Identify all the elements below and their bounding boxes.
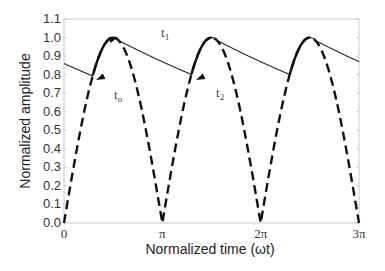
annotation-t0: to <box>114 87 123 104</box>
y-tick-label: 1.1 <box>43 11 61 26</box>
annotation-t2: t2 <box>216 85 224 102</box>
y-tick-label: 1.0 <box>43 30 61 45</box>
x-tick-label: 0 <box>61 226 68 241</box>
y-tick-label: 0.1 <box>43 196 61 211</box>
chart: 0.00.10.20.30.40.50.60.70.80.91.01.1 0π2… <box>0 0 385 271</box>
y-tick-label: 0.9 <box>43 48 61 63</box>
charging-segment <box>93 38 113 76</box>
x-axis-ticks: 0π2π3π <box>61 226 366 241</box>
x-tick-label: π <box>159 226 166 241</box>
x-tick-label: 3π <box>352 226 366 241</box>
charging-segment <box>192 38 212 75</box>
y-tick-label: 0.2 <box>43 178 61 193</box>
series-ripple-output <box>64 38 359 76</box>
y-tick-label: 0.4 <box>43 141 61 156</box>
x-axis-label: Normalized time (ωt) <box>145 241 274 257</box>
y-tick-label: 0.7 <box>43 85 61 100</box>
y-tick-label: 0.5 <box>43 122 61 137</box>
y-tick-label: 0.6 <box>43 104 61 119</box>
y-axis-label: Normalized amplitude <box>17 53 33 189</box>
y-axis-ticks: 0.00.10.20.30.40.50.60.70.80.91.01.1 <box>43 11 359 230</box>
y-tick-label: 0.0 <box>43 215 61 230</box>
y-tick-label: 0.3 <box>43 159 61 174</box>
arrowhead-t2 <box>195 73 206 82</box>
arrowhead-t0 <box>95 73 106 82</box>
annotation-arrows <box>95 34 206 83</box>
plot-frame <box>64 19 359 223</box>
series-layer <box>64 38 359 223</box>
series-rectified-sine <box>64 38 359 223</box>
annotation-t1: t1 <box>161 25 169 42</box>
y-tick-label: 0.8 <box>43 67 61 82</box>
charging-segment <box>290 38 310 75</box>
x-tick-label: 2π <box>254 226 268 241</box>
